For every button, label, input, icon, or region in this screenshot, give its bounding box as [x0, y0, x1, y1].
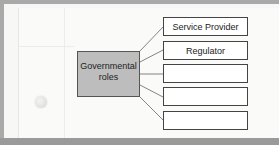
role-box-regulator: Regulator [163, 41, 248, 60]
connector-line-5 [140, 97, 163, 120]
page-bottom-edge [0, 138, 279, 145]
connector-line-2 [140, 50, 163, 62]
role-box-service-provider: Service Provider [163, 17, 248, 36]
connector-line-1 [140, 27, 163, 51]
connector-line-4 [140, 85, 163, 97]
center-label-line1: Governmental [80, 61, 137, 72]
role-box-blank-3[interactable] [163, 111, 248, 130]
governmental-roles-node: Governmental roles [77, 51, 140, 97]
role-box-blank-1[interactable] [163, 64, 248, 83]
role-label: Service Provider [172, 22, 238, 32]
center-label-line2: roles [99, 72, 119, 83]
role-label: Regulator [186, 46, 225, 56]
role-box-blank-2[interactable] [163, 87, 248, 106]
